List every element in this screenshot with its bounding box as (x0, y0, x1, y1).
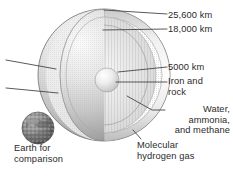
planet-sphere (34, 9, 170, 141)
label-atmosphere-line2: hydrogen gas (137, 151, 195, 162)
label-earth-line2: comparison (14, 154, 63, 165)
label-atmosphere-line1: Molecular (137, 140, 195, 151)
label-outer-radius: 25,600 km (168, 10, 212, 21)
label-mantle-composition-line3: and methane (175, 125, 230, 136)
label-mantle-composition-line1: Water, (175, 104, 230, 115)
label-mantle-composition-line2: ammonia, (175, 115, 230, 126)
label-core-composition-line2: rock (168, 87, 203, 98)
label-mantle-boundary: 18,000 km (168, 24, 212, 35)
label-atmosphere: Molecular hydrogen gas (137, 140, 195, 161)
core-sphere (95, 68, 119, 92)
label-core-composition: Iron and rock (168, 76, 203, 97)
label-earth-comparison: Earth for comparison (14, 143, 63, 164)
earth-sphere (22, 112, 54, 144)
label-core-composition-line1: Iron and (168, 76, 203, 87)
label-mantle-composition: Water, ammonia, and methane (175, 104, 230, 136)
label-core-radius: 5000 km (168, 62, 204, 73)
label-earth-line1: Earth for (14, 143, 63, 154)
planet-interior-diagram: 25,600 km 18,000 km 5000 km Iron and roc… (0, 0, 233, 177)
